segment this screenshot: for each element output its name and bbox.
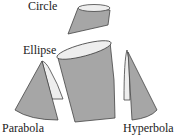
ellipse-cone — [55, 37, 115, 122]
hyperbola-label: Hyperbola — [123, 122, 174, 134]
ellipse-label: Ellipse — [23, 44, 56, 56]
circle-label: Circle — [28, 0, 57, 12]
conic-sections-diagram — [0, 0, 174, 135]
hyperbola-cone — [124, 50, 157, 120]
parabola-label: Parabola — [2, 122, 44, 134]
circle-section — [78, 5, 110, 12]
circle-cone — [68, 5, 110, 35]
parabola-cone — [15, 61, 63, 120]
